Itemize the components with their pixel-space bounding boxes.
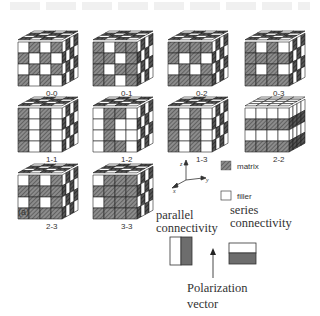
axis-z-label: z <box>179 161 183 167</box>
polarization-vector-label: Polarization vector <box>187 280 247 312</box>
cube-2-2 <box>245 97 305 152</box>
cube-0-0 <box>18 31 78 86</box>
cube-label-3-3: 3-3 <box>121 222 133 231</box>
cube-label-2-2: 2-2 <box>273 155 285 164</box>
polarization-label-line1: Polarization <box>187 280 247 296</box>
cube-label-1-3: 1-3 <box>196 155 208 164</box>
cube-label-0-1: 0-1 <box>121 89 133 98</box>
series-label-line2: connectivity <box>230 217 292 230</box>
matrix-legend-label: matrix <box>237 162 259 171</box>
filler-legend-label: filler <box>237 192 252 201</box>
panel-label: (a) <box>18 207 29 217</box>
cube-0-3 <box>245 31 305 86</box>
cube-3-3 <box>93 164 153 219</box>
polarization-label-line2: vector <box>187 296 247 312</box>
cube-label-0-3: 0-3 <box>273 89 285 98</box>
cube-1-1 <box>18 97 78 152</box>
parallel-label-line2: connectivity <box>156 222 218 235</box>
cube-label-0-2: 0-2 <box>196 89 208 98</box>
series-connectivity-diagram <box>229 243 256 264</box>
series-connectivity-label: series connectivity <box>230 204 292 230</box>
axis-y-label: y <box>205 177 209 183</box>
matrix-swatch <box>221 161 231 170</box>
polarization-arrow-icon <box>210 248 216 278</box>
cube-label-0-0: 0-0 <box>46 89 58 98</box>
cube-1-3 <box>168 97 228 152</box>
cube-label-1-1: 1-1 <box>46 155 58 164</box>
cube-1-2 <box>93 97 153 152</box>
filler-swatch <box>221 191 231 200</box>
cube-label-2-3: 2-3 <box>46 222 58 231</box>
cube-0-1 <box>93 31 153 86</box>
axis-x-label: x <box>172 188 176 194</box>
cube-0-2 <box>168 31 228 86</box>
parallel-connectivity-diagram <box>170 237 192 265</box>
cube-label-1-2: 1-2 <box>121 155 133 164</box>
axes-icon <box>172 160 206 188</box>
parallel-connectivity-label: parallel connectivity <box>156 209 218 235</box>
